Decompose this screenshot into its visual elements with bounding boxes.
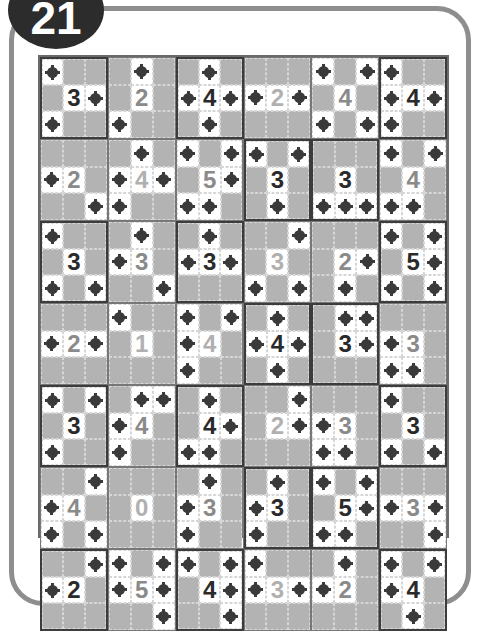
grid-cell[interactable]	[266, 550, 288, 577]
grid-cell[interactable]	[288, 275, 310, 302]
clue-cell[interactable]: 3	[334, 413, 356, 440]
grid-cell[interactable]	[424, 603, 445, 629]
clue-cell[interactable]: 3	[63, 413, 84, 439]
clue-cell[interactable]: 4	[402, 167, 424, 194]
grid-cell[interactable]	[109, 357, 131, 384]
grid-cell[interactable]	[63, 223, 84, 249]
grid-cell[interactable]	[131, 275, 153, 302]
grid-cell[interactable]	[42, 551, 63, 577]
grid-cell[interactable]	[220, 387, 241, 413]
grid-cell[interactable]	[245, 577, 267, 604]
clue-cell[interactable]: 4	[131, 413, 153, 440]
clue-cell[interactable]: 5	[199, 167, 221, 194]
grid-cell[interactable]	[221, 521, 243, 548]
grid-cell[interactable]	[63, 59, 84, 85]
grid-cell[interactable]	[63, 387, 84, 413]
grid-cell[interactable]	[109, 331, 131, 358]
grid-cell[interactable]	[402, 357, 424, 384]
grid-cell[interactable]	[85, 59, 106, 85]
grid-cell[interactable]	[424, 413, 445, 439]
clue-cell[interactable]: 2	[266, 413, 288, 440]
grid-cell[interactable]	[245, 111, 267, 138]
grid-cell[interactable]	[220, 577, 241, 603]
grid-cell[interactable]	[313, 357, 334, 383]
grid-cell[interactable]	[131, 222, 153, 249]
grid-cell[interactable]	[221, 495, 243, 522]
clue-cell[interactable]: 4	[199, 413, 220, 439]
grid-cell[interactable]	[109, 140, 131, 167]
grid-cell[interactable]	[312, 386, 334, 413]
grid-cell[interactable]	[245, 249, 267, 276]
grid-cell[interactable]	[424, 223, 445, 249]
grid-cell[interactable]	[153, 85, 175, 112]
grid-cell[interactable]	[42, 223, 63, 249]
grid-cell[interactable]	[424, 167, 446, 194]
grid-cell[interactable]	[381, 249, 402, 275]
grid-cell[interactable]	[246, 167, 267, 193]
grid-cell[interactable]	[424, 59, 445, 85]
grid-cell[interactable]	[178, 413, 199, 439]
grid-cell[interactable]	[356, 193, 377, 219]
grid-cell[interactable]	[246, 357, 267, 383]
grid-cell[interactable]	[153, 222, 175, 249]
clue-cell[interactable]: 3	[199, 249, 220, 275]
grid-cell[interactable]	[381, 577, 402, 603]
grid-cell[interactable]	[85, 551, 106, 577]
grid-cell[interactable]	[178, 577, 199, 603]
grid-cell[interactable]	[312, 550, 334, 577]
grid-cell[interactable]	[312, 85, 334, 112]
grid-cell[interactable]	[131, 521, 153, 548]
grid-cell[interactable]	[288, 249, 310, 276]
grid-cell[interactable]	[381, 387, 402, 413]
grid-cell[interactable]	[42, 59, 63, 85]
grid-cell[interactable]	[313, 305, 334, 331]
grid-cell[interactable]	[266, 275, 288, 302]
grid-cell[interactable]	[63, 521, 85, 548]
grid-cell[interactable]	[381, 439, 402, 465]
grid-cell[interactable]	[42, 413, 63, 439]
grid-cell[interactable]	[356, 111, 378, 138]
grid-cell[interactable]	[356, 222, 378, 249]
grid-cell[interactable]	[288, 495, 309, 521]
grid-cell[interactable]	[221, 304, 243, 331]
grid-cell[interactable]	[288, 85, 310, 112]
grid-cell[interactable]	[42, 439, 63, 465]
clue-cell[interactable]: 2	[63, 331, 85, 358]
grid-cell[interactable]	[424, 551, 445, 577]
grid-cell[interactable]	[85, 249, 106, 275]
grid-cell[interactable]	[109, 495, 131, 522]
grid-cell[interactable]	[85, 275, 106, 301]
grid-cell[interactable]	[109, 222, 131, 249]
grid-cell[interactable]	[246, 193, 267, 219]
clue-cell[interactable]: 3	[63, 85, 84, 111]
grid-cell[interactable]	[312, 58, 334, 85]
grid-cell[interactable]	[109, 521, 131, 548]
clue-cell[interactable]: 5	[335, 495, 356, 521]
grid-cell[interactable]	[381, 59, 402, 85]
grid-cell[interactable]	[221, 468, 243, 495]
grid-cell[interactable]	[131, 603, 153, 630]
grid-cell[interactable]	[245, 386, 267, 413]
grid-cell[interactable]	[131, 304, 153, 331]
clue-cell[interactable]: 3	[63, 249, 84, 275]
grid-cell[interactable]	[424, 468, 446, 495]
grid-cell[interactable]	[313, 521, 334, 547]
grid-cell[interactable]	[424, 495, 446, 522]
clue-cell[interactable]: 3	[335, 167, 356, 193]
grid-cell[interactable]	[312, 577, 334, 604]
grid-cell[interactable]	[153, 140, 175, 167]
grid-cell[interactable]	[109, 58, 131, 85]
grid-cell[interactable]	[335, 193, 356, 219]
grid-cell[interactable]	[177, 495, 199, 522]
grid-cell[interactable]	[42, 387, 63, 413]
grid-cell[interactable]	[153, 111, 175, 138]
grid-cell[interactable]	[335, 305, 356, 331]
grid-cell[interactable]	[41, 331, 63, 358]
grid-cell[interactable]	[199, 603, 220, 629]
grid-cell[interactable]	[63, 439, 84, 465]
grid-cell[interactable]	[356, 521, 377, 547]
grid-cell[interactable]	[266, 58, 288, 85]
grid-cell[interactable]	[220, 413, 241, 439]
grid-cell[interactable]	[85, 495, 107, 522]
grid-cell[interactable]	[220, 551, 241, 577]
